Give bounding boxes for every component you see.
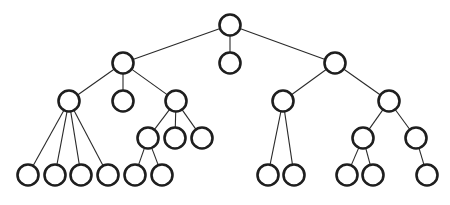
tree-node-n20 bbox=[353, 128, 374, 149]
tree-node-n24 bbox=[417, 165, 438, 186]
edge-n0-n3 bbox=[240, 29, 325, 60]
tree-node-n4 bbox=[59, 91, 80, 112]
tree-node-n13 bbox=[138, 128, 159, 149]
edge-n7-n19 bbox=[285, 111, 293, 164]
tree-node-n14 bbox=[165, 128, 186, 149]
nodes-layer bbox=[18, 15, 438, 186]
tree-node-n16 bbox=[125, 165, 146, 186]
tree-diagram bbox=[0, 0, 450, 205]
edge-n4-n11 bbox=[71, 111, 80, 164]
tree-node-n15 bbox=[192, 128, 213, 149]
tree-node-n2 bbox=[220, 53, 241, 74]
edge-n20-n23 bbox=[366, 148, 371, 165]
edge-n3-n7 bbox=[291, 69, 326, 95]
tree-node-n8 bbox=[379, 91, 400, 112]
tree-node-n19 bbox=[284, 165, 305, 186]
edge-n3-n8 bbox=[344, 69, 381, 95]
tree-node-n12 bbox=[98, 165, 119, 186]
tree-node-n18 bbox=[258, 165, 279, 186]
edge-n1-n6 bbox=[132, 69, 168, 95]
tree-node-n10 bbox=[45, 165, 66, 186]
edge-n8-n20 bbox=[369, 110, 383, 130]
edge-n6-n15 bbox=[182, 110, 196, 130]
tree-node-n7 bbox=[273, 91, 294, 112]
tree-node-n11 bbox=[71, 165, 92, 186]
edge-n0-n1 bbox=[133, 29, 220, 60]
edge-n8-n21 bbox=[395, 109, 410, 129]
tree-node-n22 bbox=[337, 165, 358, 186]
tree-node-n23 bbox=[363, 165, 384, 186]
edge-n13-n16 bbox=[138, 148, 144, 165]
tree-node-n21 bbox=[406, 128, 427, 149]
edge-n21-n24 bbox=[419, 148, 424, 165]
tree-node-n6 bbox=[166, 91, 187, 112]
tree-node-n3 bbox=[325, 53, 346, 74]
tree-node-n5 bbox=[113, 91, 134, 112]
tree-node-n1 bbox=[113, 53, 134, 74]
edge-n1-n4 bbox=[78, 69, 115, 95]
edge-n6-n13 bbox=[154, 109, 169, 129]
tree-node-n17 bbox=[152, 165, 173, 186]
tree-node-n9 bbox=[18, 165, 39, 186]
tree-node-n0 bbox=[220, 15, 241, 36]
edge-n20-n22 bbox=[351, 148, 359, 166]
edge-n13-n17 bbox=[152, 148, 159, 165]
edge-n4-n9 bbox=[33, 110, 64, 166]
edge-n7-n18 bbox=[270, 111, 281, 164]
